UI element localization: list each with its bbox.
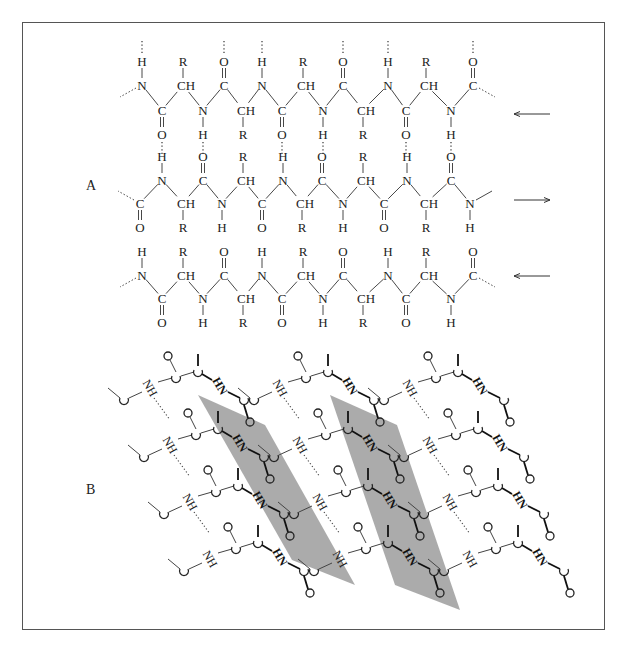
bond-line	[479, 278, 495, 287]
atom-h: H	[465, 220, 474, 235]
atom-c: C	[469, 78, 478, 93]
atom-h: H	[318, 127, 327, 142]
bond-line	[347, 280, 357, 292]
oxygen-atom	[354, 523, 362, 531]
hn-group: HN	[469, 375, 490, 398]
atom-h: H	[217, 220, 226, 235]
bond-line	[455, 90, 469, 106]
bond-line	[528, 506, 540, 512]
carbon-atom	[361, 547, 370, 554]
atom-ch: CH	[357, 103, 375, 118]
bond-line	[226, 187, 237, 199]
atom-o: O	[379, 220, 388, 235]
atom-n: N	[257, 78, 267, 93]
atom-o: O	[198, 149, 207, 164]
bond-line	[410, 92, 421, 105]
atom-h: H	[257, 54, 266, 69]
atom-n: N	[383, 268, 393, 283]
atom-ch: CH	[357, 291, 375, 306]
atom-r: R	[299, 54, 308, 69]
atom-r: R	[299, 244, 308, 259]
atom-h: H	[383, 244, 392, 259]
bond-line	[189, 185, 199, 197]
bond-line	[168, 559, 180, 569]
oxygen-atom	[306, 589, 314, 597]
carbon-atom	[212, 490, 221, 497]
bond-line	[304, 576, 308, 589]
atom-n: N	[217, 196, 227, 211]
bond-line	[120, 88, 136, 97]
atom-h: H	[137, 54, 146, 69]
atom-c: C	[158, 291, 167, 306]
carbon-atom	[300, 569, 309, 576]
bond-line	[433, 281, 447, 294]
bond-line	[198, 492, 212, 496]
carbon-atom	[380, 398, 389, 405]
atom-ch: CH	[177, 268, 195, 283]
bond-line	[279, 449, 292, 455]
atom-o: O	[219, 244, 228, 259]
atom-h: H	[338, 220, 347, 235]
bond-line	[332, 374, 342, 380]
bond-line	[504, 405, 508, 418]
strand-direction-arrow	[514, 198, 550, 203]
carbon-atom	[234, 484, 243, 491]
bond-line	[418, 378, 432, 382]
oxygen-atom	[294, 352, 302, 360]
atom-c: C	[380, 196, 389, 211]
strand: NHCOCHRNHCOCHRNHCOCHRNHCOCHRNHCOCHRNHCO	[120, 41, 495, 154]
oxygen-atom	[334, 466, 342, 474]
strand-direction-arrow	[514, 274, 550, 279]
atom-c: C	[447, 173, 456, 188]
atom-r: R	[239, 149, 248, 164]
atom-o: O	[468, 244, 477, 259]
bond-line	[166, 92, 177, 106]
bond-line	[189, 563, 202, 569]
bond-line	[146, 90, 159, 106]
atom-n: N	[198, 291, 208, 306]
bond-line	[218, 549, 232, 553]
atom-ch: CH	[357, 173, 375, 188]
oxygen-atom	[444, 409, 452, 417]
carbon-atom	[520, 455, 529, 462]
atom-n: N	[198, 103, 208, 118]
carbon-atom	[494, 484, 503, 491]
nh-group: NH	[290, 434, 311, 456]
bond-line	[238, 388, 250, 398]
bond-line	[259, 392, 272, 398]
bond-line	[288, 378, 302, 382]
bond-line	[221, 486, 234, 490]
oxygen-atom	[164, 352, 172, 360]
atom-r: R	[422, 54, 431, 69]
bond-line	[368, 388, 380, 398]
bond-line	[564, 576, 568, 589]
atom-r: R	[179, 220, 188, 235]
carbon-atom	[432, 376, 441, 383]
bond-line	[524, 462, 528, 475]
atom-ch: CH	[420, 268, 438, 283]
bond-line	[501, 543, 514, 547]
bond-line	[228, 90, 238, 103]
bond-line	[241, 543, 254, 547]
bond-line	[490, 531, 496, 543]
atom-c: C	[278, 291, 287, 306]
atom-n: N	[446, 103, 456, 118]
bond-line	[308, 185, 318, 197]
atom-r: R	[359, 149, 368, 164]
atom-n: N	[278, 173, 288, 188]
atom-c: C	[220, 268, 229, 283]
bond-line	[411, 185, 420, 196]
atom-o: O	[446, 149, 455, 164]
bond-line	[438, 435, 452, 439]
carbon-atom	[240, 398, 249, 405]
bond-line	[262, 545, 272, 551]
bond-line	[414, 398, 430, 420]
bond-line	[128, 445, 140, 455]
sheet-row: NHHNNHHNNHHN	[148, 466, 554, 540]
panel-a-label: A	[86, 178, 96, 194]
atom-r: R	[179, 54, 188, 69]
atom-c: C	[318, 173, 327, 188]
atom-c: C	[220, 78, 229, 93]
bond-line	[288, 563, 300, 569]
atom-h: H	[257, 244, 266, 259]
